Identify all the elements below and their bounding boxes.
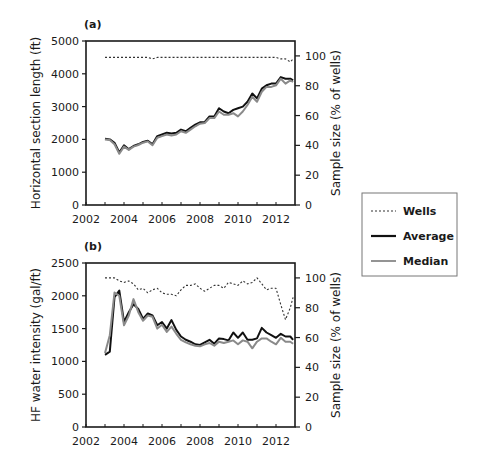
y-axis-label: Horizontal section length (ft) (29, 37, 43, 209)
y2-tick-label: 20 (305, 391, 319, 404)
chart-figure: (a)0100020003000400050000204060801002002… (0, 0, 478, 471)
y-tick-label: 0 (72, 421, 79, 434)
y2-axis-label: Sample size (% of wells) (329, 272, 343, 418)
x-tick-label: 2012 (262, 213, 290, 226)
legend: WellsAverageMedian (362, 193, 457, 276)
series-median-line (105, 79, 293, 154)
y-tick-label: 1000 (51, 355, 79, 368)
y2-tick-label: 20 (305, 169, 319, 182)
panel-b: (b)0500100015002000250002040608010020022… (29, 240, 343, 448)
y2-tick-label: 40 (305, 139, 319, 152)
y2-tick-label: 100 (305, 272, 326, 285)
y-tick-label: 500 (58, 388, 79, 401)
x-tick-label: 2002 (72, 213, 100, 226)
series-median-line (105, 293, 293, 353)
y2-tick-label: 80 (305, 302, 319, 315)
panel-a: (a)0100020003000400050000204060801002002… (29, 18, 343, 226)
y-tick-label: 2000 (51, 133, 79, 146)
x-tick-label: 2006 (148, 435, 176, 448)
panel-label: (b) (84, 240, 102, 253)
y2-tick-label: 60 (305, 332, 319, 345)
y2-tick-label: 40 (305, 361, 319, 374)
y2-axis-label: Sample size (% of wells) (329, 50, 343, 196)
y2-tick-label: 0 (305, 199, 312, 212)
y-tick-label: 1500 (51, 323, 79, 336)
y-tick-label: 5000 (51, 35, 79, 48)
y2-tick-label: 80 (305, 80, 319, 93)
plot-frame (86, 41, 295, 205)
legend-label-average: Average (403, 230, 454, 243)
y-tick-label: 2000 (51, 290, 79, 303)
x-tick-label: 2002 (72, 435, 100, 448)
x-tick-label: 2006 (148, 213, 176, 226)
x-tick-label: 2008 (186, 213, 214, 226)
y2-tick-label: 0 (305, 421, 312, 434)
x-tick-label: 2012 (262, 435, 290, 448)
legend-label-wells: Wells (403, 205, 437, 218)
x-tick-label: 2004 (110, 435, 138, 448)
x-tick-label: 2008 (186, 435, 214, 448)
x-tick-label: 2010 (224, 213, 252, 226)
panel-label: (a) (84, 18, 101, 31)
series-wells-line (105, 57, 293, 62)
x-tick-label: 2010 (224, 435, 252, 448)
legend-label-median: Median (403, 255, 448, 268)
y-axis-label: HF water intensity (gal/ft) (29, 268, 43, 422)
y-tick-label: 4000 (51, 68, 79, 81)
y-tick-label: 0 (72, 199, 79, 212)
x-tick-label: 2004 (110, 213, 138, 226)
y-tick-label: 2500 (51, 257, 79, 270)
y-tick-label: 3000 (51, 101, 79, 114)
y2-tick-label: 60 (305, 110, 319, 123)
y-tick-label: 1000 (51, 166, 79, 179)
y2-tick-label: 100 (305, 50, 326, 63)
